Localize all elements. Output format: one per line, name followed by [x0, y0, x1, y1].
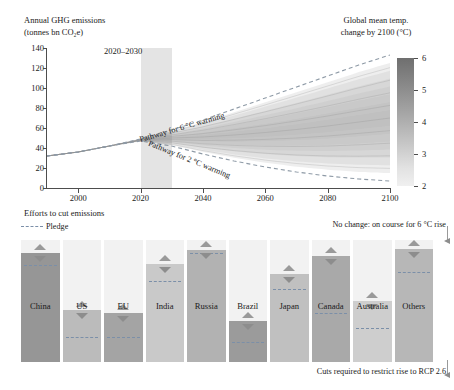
- x-tick-mark: [78, 189, 79, 193]
- x-tick-2080: 2080: [308, 193, 348, 203]
- x-axis-line: [46, 188, 391, 189]
- colorbar-tick-6: 6: [422, 53, 426, 63]
- y-tick-mark: [43, 88, 47, 89]
- y-axis-tick-labels: 140120100806040200: [8, 42, 44, 194]
- bar-label: China: [21, 301, 60, 311]
- colorbar-tick-2: 2: [422, 181, 426, 191]
- bar-group-australia[interactable]: Australia: [353, 240, 392, 362]
- increase-marker-icon: [283, 265, 295, 271]
- pledge-legend: Pledge: [21, 220, 68, 232]
- pledge-line: [273, 289, 306, 290]
- y-tick-mark: [43, 148, 47, 149]
- increase-marker-icon: [325, 247, 337, 253]
- x-axis-tick-labels: 200020202040206020802100: [47, 190, 407, 206]
- chart-title-line2: (tonnes bn CO₂e): [24, 26, 224, 38]
- colorbar-tick-mark: [414, 90, 418, 91]
- pledge-line: [66, 337, 99, 338]
- annotation-bottom-arrow-icon: [444, 372, 450, 378]
- colorbar-tick-labels: 65432: [418, 50, 440, 196]
- pledge-line: [398, 272, 431, 273]
- y-tick-60: 60: [10, 123, 44, 133]
- bar-group-brazil[interactable]: Brazil: [229, 240, 268, 362]
- decrease-marker-icon: [325, 259, 337, 265]
- y-tick-mark: [43, 108, 47, 109]
- colorbar-title-line2: change by 2100 (°C): [306, 26, 446, 38]
- colorbar-title: Global mean temp. change by 2100 (°C): [306, 14, 446, 38]
- bar-label: Russia: [187, 301, 226, 311]
- x-tick-mark: [141, 189, 142, 193]
- highlight-span-2020-2030: [141, 48, 172, 188]
- colorbar-tick-4: 4: [422, 117, 426, 127]
- decrease-marker-icon: [76, 313, 88, 319]
- y-tick-mark: [43, 128, 47, 129]
- bar-group-others[interactable]: Others: [395, 240, 434, 362]
- x-tick-2000: 2000: [58, 193, 98, 203]
- increase-marker-icon: [200, 241, 212, 247]
- decrease-marker-icon: [34, 256, 46, 262]
- colorbar-tick-mark: [414, 186, 418, 187]
- colorbar-tick-mark: [414, 58, 418, 59]
- chart-title: Annual GHG emissions (tonnes bn CO₂e): [24, 14, 224, 38]
- colorbar-title-line1: Global mean temp.: [306, 14, 446, 26]
- increase-marker-icon: [366, 292, 378, 298]
- decrease-marker-icon: [159, 267, 171, 273]
- plot-area: Pathway for 6 °C warming Pathway for 2 °…: [47, 48, 390, 188]
- pledge-line: [149, 281, 182, 282]
- bar-label: India: [146, 301, 185, 311]
- bar-label: EU: [104, 301, 143, 311]
- decrease-marker-icon: [117, 316, 129, 322]
- decrease-marker-icon: [408, 252, 420, 258]
- bar-label: US: [63, 301, 102, 311]
- x-tick-2060: 2060: [245, 193, 285, 203]
- decrease-marker-icon: [242, 324, 254, 330]
- annotation-no-change: No change: on course for 6 °C rise: [332, 220, 446, 229]
- x-tick-mark: [203, 189, 204, 193]
- x-tick-2100: 2100: [370, 193, 410, 203]
- bar-group-russia[interactable]: Russia: [187, 240, 226, 362]
- emissions-pathway-chart: Annual GHG emissions (tonnes bn CO₂e) Gl…: [0, 0, 454, 205]
- y-tick-mark: [43, 188, 47, 189]
- annotation-top-arrow-icon: [444, 238, 450, 244]
- y-tick-100: 100: [10, 83, 44, 93]
- y-tick-20: 20: [10, 163, 44, 173]
- bar-group-us[interactable]: US: [63, 240, 102, 362]
- increase-marker-icon: [408, 240, 420, 246]
- country-efforts-bar-chart: ChinaUSEUIndiaRussiaBrazilJapanCanadaAus…: [21, 240, 433, 362]
- bar-group-india[interactable]: India: [146, 240, 185, 362]
- increase-marker-icon: [34, 244, 46, 250]
- bar-label: Brazil: [229, 301, 268, 311]
- pledge-line: [315, 313, 348, 314]
- increase-marker-icon: [242, 312, 254, 318]
- y-tick-mark: [43, 68, 47, 69]
- decrease-marker-icon: [283, 277, 295, 283]
- x-tick-mark: [265, 189, 266, 193]
- colorbar-tick-mark: [414, 154, 418, 155]
- colorbar-tick-3: 3: [422, 149, 426, 159]
- bar-group-japan[interactable]: Japan: [270, 240, 309, 362]
- increase-marker-icon: [159, 255, 171, 261]
- pledge-line: [232, 342, 265, 343]
- x-tick-mark: [328, 189, 329, 193]
- bar-group-canada[interactable]: Canada: [312, 240, 351, 362]
- pledge-legend-label: Pledge: [46, 222, 68, 231]
- temperature-colorbar: [397, 58, 414, 186]
- decrease-marker-icon: [200, 253, 212, 259]
- colorbar-tick-mark: [414, 122, 418, 123]
- x-tick-2020: 2020: [121, 193, 161, 203]
- bar-group-eu[interactable]: EU: [104, 240, 143, 362]
- x-tick-2040: 2040: [183, 193, 223, 203]
- bar-fill: [146, 264, 185, 362]
- pledge-line: [356, 328, 389, 329]
- x-tick-mark: [390, 189, 391, 193]
- y-tick-0: 0: [10, 183, 44, 193]
- bar-label: Japan: [270, 301, 309, 311]
- efforts-chart-title: Efforts to cut emissions: [24, 208, 104, 218]
- pledge-dash-icon: [21, 226, 43, 227]
- pledge-line: [107, 337, 140, 338]
- bar-group-china[interactable]: China: [21, 240, 60, 362]
- colorbar-tick-5: 5: [422, 85, 426, 95]
- bar-label: Canada: [312, 301, 351, 311]
- bar-label: Others: [395, 301, 434, 311]
- bar-fill: [270, 274, 309, 362]
- period-label-2020-2030: 2020–2030: [104, 46, 142, 56]
